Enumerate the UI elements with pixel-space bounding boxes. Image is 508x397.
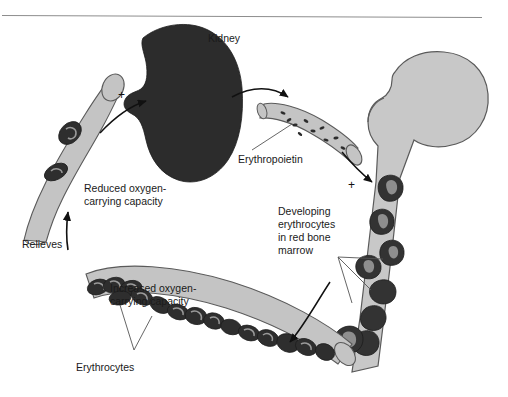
increased-capacity-label-line2: carrying capacity	[110, 295, 190, 307]
developing-label-line4: marrow	[278, 244, 313, 256]
developing-label-line2: erythrocytes	[278, 218, 335, 230]
developing-cell	[369, 280, 396, 304]
increased-capacity-label-line1: Increased oxygen-	[110, 282, 197, 294]
kidney-label: Kidney	[208, 32, 241, 44]
erythropoiesis-diagram: Kidney +	[0, 0, 508, 397]
developing-label-line1: Developing	[278, 205, 331, 217]
erythrocytes-label: Erythrocytes	[76, 361, 134, 373]
plus-sign-left: +	[118, 88, 125, 102]
plus-sign-right: +	[348, 178, 355, 192]
erythropoietin-label: Erythropoietin	[238, 153, 303, 165]
developing-cell	[370, 209, 394, 234]
developing-cell	[380, 240, 404, 265]
figure-canvas: Kidney +	[0, 0, 508, 397]
reduced-capacity-label-line2: carrying capacity	[84, 195, 164, 207]
developing-cell	[361, 306, 387, 331]
relieves-label: Relieves	[22, 238, 62, 250]
developing-label-line3: in red bone	[278, 231, 331, 243]
developing-cell	[378, 175, 403, 201]
reduced-capacity-label-line1: Reduced oxygen-	[84, 182, 167, 194]
